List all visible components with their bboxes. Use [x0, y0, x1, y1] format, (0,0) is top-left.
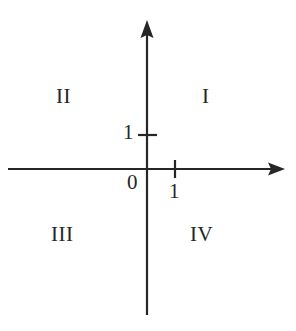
y-axis-tick-label-1: 1 [123, 122, 134, 143]
quadrant-2-label: II [56, 86, 71, 107]
quadrant-1-label: I [202, 86, 210, 107]
quadrant-3-label: III [51, 224, 73, 245]
axes-drawing [0, 0, 296, 331]
coordinate-plane-figure: II I III IV 1 1 0 [0, 0, 296, 331]
origin-label: 0 [127, 172, 138, 193]
x-axis-tick-label-1: 1 [169, 181, 180, 202]
quadrant-4-label: IV [190, 224, 213, 245]
